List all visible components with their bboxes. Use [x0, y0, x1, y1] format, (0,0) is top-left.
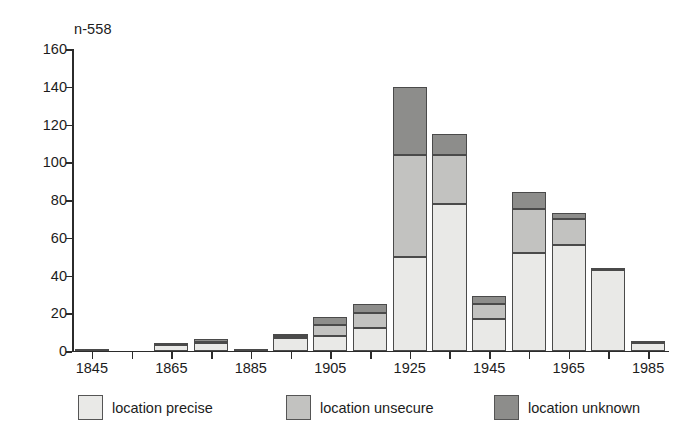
- bar-1955: [512, 192, 546, 351]
- bar-segment-precise: [631, 343, 665, 351]
- y-axis-tick-label: 120: [43, 117, 67, 133]
- bar-1875: [194, 340, 228, 351]
- x-axis-tick-mark: [569, 352, 571, 359]
- bar-segment-unknown: [313, 317, 347, 325]
- bar-1865: [154, 343, 188, 351]
- bar-segment-unsecure: [512, 209, 546, 252]
- bar-segment-unknown: [512, 192, 546, 209]
- legend-item-unknown: location unknown: [494, 395, 640, 420]
- x-axis-tick-label: 1845: [76, 360, 108, 376]
- y-axis-tick-label: 0: [59, 343, 67, 359]
- x-axis-tick-mark: [449, 352, 451, 359]
- bar-segment-unknown: [631, 341, 665, 343]
- bar-segment-unsecure: [194, 341, 228, 343]
- bar-1965: [552, 213, 586, 351]
- x-axis-tick-mark: [171, 352, 173, 359]
- bar-segment-unsecure: [432, 155, 466, 204]
- bar-1915: [353, 304, 387, 351]
- y-axis-tick-label: 20: [51, 305, 67, 321]
- bar-segment-precise: [194, 343, 228, 351]
- bar-1885: [234, 349, 268, 351]
- x-axis-tick-label: 1905: [314, 360, 346, 376]
- y-axis-tick-label: 80: [51, 192, 67, 208]
- bar-segment-unknown: [194, 339, 228, 341]
- bar-segment-unknown: [432, 134, 466, 155]
- plot-area: [72, 49, 668, 351]
- bar-1985: [631, 342, 665, 351]
- bar-segment-unsecure: [353, 313, 387, 328]
- x-axis-tick-label: 1945: [473, 360, 505, 376]
- x-axis-tick-mark: [608, 352, 610, 359]
- x-axis-tick-mark: [489, 352, 491, 359]
- legend-label: location precise: [112, 400, 213, 416]
- x-axis-tick-label: 1965: [553, 360, 585, 376]
- bar-segment-unsecure: [313, 325, 347, 336]
- bar-1845: [75, 349, 109, 351]
- y-axis-tick-label: 140: [43, 79, 67, 95]
- x-axis-tick-label: 1985: [632, 360, 664, 376]
- legend-item-unsecure: location unsecure: [286, 395, 434, 420]
- bar-segment-precise: [313, 336, 347, 351]
- bar-segment-precise: [432, 204, 466, 351]
- bar-segment-precise: [75, 349, 109, 351]
- bar-segment-unknown: [273, 334, 307, 336]
- bar-segment-unknown: [393, 87, 427, 155]
- x-axis-tick-mark: [211, 352, 213, 359]
- y-axis-tick-label: 40: [51, 268, 67, 284]
- x-axis-tick-mark: [370, 352, 372, 359]
- bar-segment-precise: [353, 328, 387, 351]
- x-axis-tick-label: 1865: [155, 360, 187, 376]
- x-axis-tick-mark: [92, 352, 94, 359]
- legend-label: location unsecure: [320, 400, 434, 416]
- bar-segment-unknown: [472, 296, 506, 304]
- bar-segment-precise: [273, 338, 307, 351]
- x-axis-tick-mark: [251, 352, 253, 359]
- chart-legend: location preciselocation unsecurelocatio…: [0, 389, 696, 434]
- legend-item-precise: location precise: [78, 395, 213, 420]
- x-axis-tick-mark: [648, 352, 650, 359]
- bar-segment-precise: [512, 253, 546, 351]
- x-axis-tick-mark: [291, 352, 293, 359]
- stacked-bar-chart: n-558 020406080100120140160 184518651885…: [0, 0, 696, 446]
- bar-segment-precise: [552, 245, 586, 351]
- bar-segment-precise: [393, 257, 427, 351]
- legend-swatch-unknown: [494, 395, 519, 420]
- y-axis-tick-label: 100: [43, 154, 67, 170]
- bar-segment-unsecure: [154, 343, 188, 345]
- bar-1935: [432, 134, 466, 351]
- legend-swatch-unsecure: [286, 395, 311, 420]
- bar-segment-unsecure: [273, 336, 307, 338]
- legend-swatch-precise: [78, 395, 103, 420]
- bar-segment-precise: [591, 270, 625, 351]
- x-axis-tick-mark: [529, 352, 531, 359]
- bar-segment-unsecure: [472, 304, 506, 319]
- y-axis-tick-label: 160: [43, 41, 67, 57]
- bar-segment-unknown: [552, 213, 586, 219]
- bar-segment-unsecure: [552, 219, 586, 245]
- bar-segment-precise: [154, 345, 188, 351]
- bar-1945: [472, 296, 506, 351]
- bar-1925: [393, 87, 427, 351]
- y-axis-tick-label: 60: [51, 230, 67, 246]
- x-axis-tick-label: 1885: [235, 360, 267, 376]
- bar-segment-unknown: [591, 268, 625, 270]
- bar-segment-precise: [472, 319, 506, 351]
- bar-1975: [591, 268, 625, 351]
- x-axis-tick-mark: [410, 352, 412, 359]
- sample-size-annotation: n-558: [74, 21, 112, 37]
- bar-1895: [273, 334, 307, 351]
- x-axis-tick-mark: [132, 352, 134, 359]
- bar-segment-unsecure: [393, 155, 427, 257]
- bar-1905: [313, 317, 347, 351]
- legend-label: location unknown: [528, 400, 640, 416]
- bar-segment-precise: [234, 349, 268, 351]
- x-axis-tick-mark: [330, 352, 332, 359]
- bar-segment-unknown: [353, 304, 387, 313]
- x-axis-tick-label: 1925: [394, 360, 426, 376]
